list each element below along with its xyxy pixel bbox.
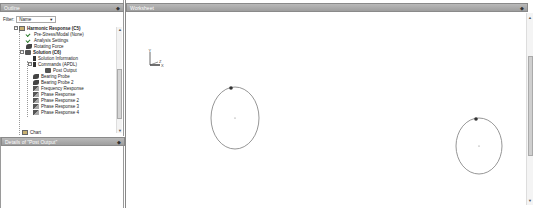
details-header: Details of "Post Output" ◆	[1, 137, 125, 146]
tree-item-label: Chart	[30, 130, 41, 135]
tree-item-label: Solution (C6)	[33, 50, 61, 55]
scroll-down-icon[interactable]: ▼	[528, 198, 532, 203]
tree-item-chart[interactable]: Chart	[22, 129, 41, 135]
harmonic-analysis-icon	[19, 26, 25, 31]
phase-response-icon	[33, 110, 39, 115]
orbit-start-marker	[229, 86, 233, 90]
scrollbar-thumb[interactable]	[528, 56, 533, 156]
tree-item-label: Rotating Force	[34, 44, 64, 49]
tree-connector	[19, 31, 20, 135]
worksheet-header: Worksheet ◆	[126, 3, 528, 12]
scroll-up-icon[interactable]: ▲	[528, 15, 532, 20]
chevron-down-icon: ▼	[49, 17, 53, 23]
scroll-down-icon[interactable]: ▼	[118, 128, 122, 133]
details-title: Details of "Post Output"	[5, 139, 57, 145]
chart-icon	[22, 130, 28, 135]
commands-icon	[33, 62, 36, 67]
pin-icon[interactable]: ◆	[117, 138, 121, 147]
tree-item-phase-response-4[interactable]: Phase Response 4	[33, 109, 79, 115]
pin-icon[interactable]: ◆	[116, 4, 120, 13]
orbit-plot	[126, 12, 526, 208]
post-output-icon	[45, 68, 51, 73]
tree-item-label: Commands (APDL)	[38, 62, 77, 67]
tree-item-label: Bearing Probe	[41, 74, 70, 79]
bearing-probe-icon	[33, 74, 39, 79]
outline-panel: Outline ◆ Filter: Name ▼ − Harmonic Resp…	[0, 0, 124, 136]
filter-value: Name	[19, 17, 31, 22]
worksheet-title: Worksheet	[130, 5, 154, 11]
frequency-response-icon	[33, 86, 39, 91]
tree-item-label: Solution Information	[38, 56, 78, 61]
phase-response-icon	[33, 98, 39, 103]
tree-item-label: Pre-Stress/Modal (None)	[34, 32, 84, 37]
worksheet-scrollbar[interactable]: ▲ ▼	[526, 13, 533, 205]
analysis-settings-icon	[26, 38, 32, 43]
filter-row: Filter: Name ▼	[3, 15, 56, 23]
tree-item-label: Phase Response 2	[41, 98, 79, 103]
phase-response-icon	[33, 104, 39, 109]
tree-item-label: Bearing Probe 2	[41, 80, 74, 85]
tree-item-label: Phase Response 4	[41, 110, 79, 115]
details-panel: Details of "Post Output" ◆	[0, 137, 124, 208]
orbit-start-marker	[474, 117, 478, 121]
scrollbar-thumb[interactable]	[117, 69, 122, 119]
tree-connector	[27, 61, 28, 117]
phase-response-icon	[33, 92, 39, 97]
collapse-icon[interactable]: −	[20, 50, 24, 54]
filter-dropdown[interactable]: Name ▼	[16, 16, 56, 23]
worksheet-panel: Worksheet ◆ Y Z X ▲ ▼	[125, 0, 535, 208]
outline-title: Outline	[4, 5, 20, 11]
tree-item-label: Analysis Settings	[34, 38, 68, 43]
tree-item-label: Harmonic Response (C5)	[27, 26, 81, 31]
orbit-2	[456, 117, 502, 174]
scroll-up-icon[interactable]: ▲	[118, 27, 122, 32]
collapse-icon[interactable]: −	[14, 26, 18, 30]
outline-scrollbar[interactable]: ▲ ▼	[116, 27, 122, 133]
check-icon	[26, 32, 32, 37]
tree-item-label: Phase Response 3	[41, 104, 79, 109]
rotating-force-icon	[26, 44, 32, 49]
bearing-probe-icon	[33, 80, 39, 85]
tree-item-label: Frequency Response	[41, 86, 84, 91]
solution-information-icon	[33, 56, 36, 61]
tree-item-label: Post Output	[53, 68, 77, 73]
orbit-1	[211, 86, 259, 149]
collapse-icon[interactable]: −	[28, 62, 32, 66]
filter-label: Filter:	[3, 17, 14, 22]
outline-header: Outline ◆	[0, 3, 124, 12]
solution-icon	[25, 50, 31, 55]
tree-item-label: Phase Response	[41, 92, 75, 97]
